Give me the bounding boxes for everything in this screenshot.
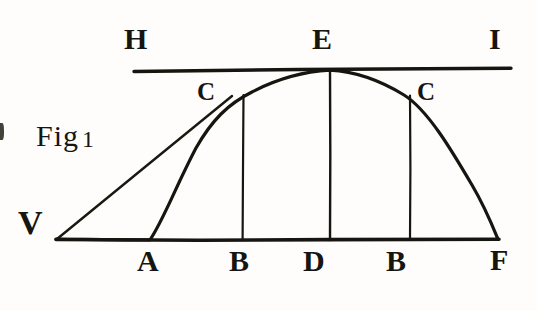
ordinate-b-left: [243, 95, 244, 240]
label-d: D: [303, 246, 325, 276]
figure-caption-word: Fig: [36, 119, 79, 152]
chord-line-vc: [57, 96, 232, 239]
label-c-left: C: [197, 79, 215, 104]
label-b-right: B: [386, 246, 407, 276]
figure-caption-number: 1: [82, 126, 95, 152]
figure-caption: Fig1: [36, 121, 92, 151]
label-h: H: [124, 24, 148, 54]
label-v: V: [18, 206, 43, 240]
label-b-left: B: [229, 246, 250, 276]
label-i: I: [489, 24, 501, 54]
label-c-right: C: [417, 79, 435, 104]
figure-drawing: [0, 0, 537, 311]
label-e: E: [312, 24, 333, 54]
label-f: F: [490, 245, 509, 275]
label-a: A: [137, 246, 159, 276]
figure-container: H E I C C V A B D B F Fig1: [0, 0, 537, 311]
